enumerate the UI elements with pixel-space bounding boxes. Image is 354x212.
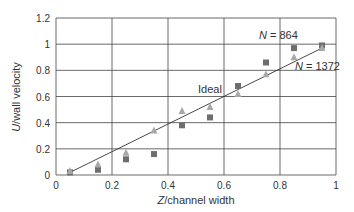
square-marker (151, 151, 157, 157)
x-tick-label: 0.4 (161, 180, 175, 191)
scatter-plot: 00.20.40.60.811.200.20.40.60.81 U/wall v… (0, 0, 354, 212)
y-axis-label: U/wall velocity (10, 62, 22, 132)
x-tick-label: 0.2 (105, 180, 119, 191)
y-tick-label: 0.6 (36, 92, 50, 103)
annotation-n1372: N = 1372 (295, 60, 340, 72)
y-tick-label: 1 (44, 39, 50, 50)
grid-lines (56, 18, 336, 175)
square-marker (263, 59, 269, 65)
square-marker (207, 114, 213, 120)
annotation-n864: N = 864 (259, 29, 298, 41)
y-tick-label: 0.2 (36, 144, 50, 155)
triangle-marker (95, 161, 102, 168)
triangle-marker (123, 149, 130, 156)
y-tick-label: 0.4 (36, 118, 50, 129)
chart: 00.20.40.60.811.200.20.40.60.81 U/wall v… (0, 0, 354, 212)
y-tick-label: 0 (44, 170, 50, 181)
x-tick-label: 0.6 (217, 180, 231, 191)
x-axis-label: Z/channel width (156, 194, 234, 206)
y-tick-label: 0.8 (36, 65, 50, 76)
triangle-marker (179, 107, 186, 114)
square-marker (291, 45, 297, 51)
data-points (67, 42, 326, 175)
square-marker (95, 167, 101, 173)
x-tick-label: 1 (333, 180, 339, 191)
x-tick-label: 0.8 (273, 180, 287, 191)
ideal-line (70, 48, 322, 172)
triangle-marker (263, 70, 270, 77)
annotation-ideal: Ideal (198, 83, 222, 95)
x-tick-label: 0 (53, 180, 59, 191)
square-marker (179, 122, 185, 128)
y-tick-label: 1.2 (36, 13, 50, 24)
square-marker (235, 83, 241, 89)
triangle-marker (207, 103, 214, 110)
square-marker (123, 156, 129, 162)
